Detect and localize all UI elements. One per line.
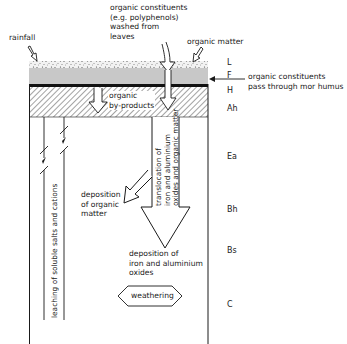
horizon-bh: Bh [227, 205, 238, 214]
deposition-iron-label: deposition of iron and aluminium oxides [129, 249, 203, 278]
horizon-c: C [227, 300, 233, 309]
organic-byproducts-label: organic by-products [108, 91, 155, 110]
horizon-ah: Ah [227, 104, 238, 113]
mor-humus-note: organic constituents pass through mor hu… [248, 72, 343, 91]
l-layer [29, 61, 208, 68]
organic-matter-arrow-icon [193, 47, 203, 62]
horizon-h: H [227, 86, 233, 95]
weathering-label: weathering [131, 291, 174, 301]
horizon-ea: Ea [227, 152, 237, 161]
organic-constituents-label: organic constituents (e.g. polyphenols) … [110, 3, 188, 41]
f-layer [29, 68, 208, 84]
horizon-f: F [227, 71, 232, 80]
deposition-organic-label: deposition of organic matter [81, 190, 121, 219]
rainfall-label: rainfall [9, 33, 35, 43]
leaching-label: leaching of soluble salts and cations [50, 184, 59, 318]
h-layer [29, 84, 208, 87]
horizon-l: L [227, 58, 231, 67]
translocation-label: translocation of iron and aluminium oxid… [155, 109, 181, 206]
organic-matter-label: organic matter [187, 37, 243, 47]
rainfall-arrow-icon [28, 46, 37, 61]
leaching-arrowheads [42, 137, 66, 164]
horizon-bs: Bs [227, 246, 237, 255]
